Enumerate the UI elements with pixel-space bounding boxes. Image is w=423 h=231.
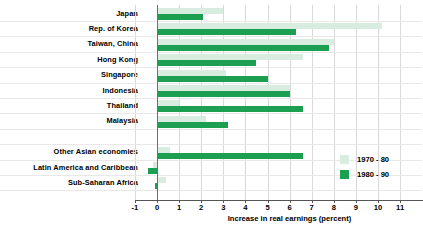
x-tick-label: 5: [258, 203, 278, 212]
row-separator: [0, 144, 422, 145]
bar: [148, 168, 157, 174]
x-tick-label: 6: [280, 203, 300, 212]
legend-label-1980-90: 1980 - 90: [357, 170, 389, 179]
row-separator: [0, 98, 422, 99]
row-separator: [0, 36, 422, 37]
bar: [157, 45, 329, 51]
gridline: [312, 5, 313, 200]
x-tick-label: 2: [191, 203, 211, 212]
legend-item: 1980 - 90: [340, 167, 389, 182]
legend-label-1970-80: 1970 - 80: [357, 155, 389, 164]
row-separator: [0, 52, 422, 53]
bar: [157, 29, 296, 35]
bar: [157, 122, 228, 128]
x-tick-label: 11: [390, 203, 410, 212]
legend-swatch-1980-90: [340, 170, 349, 179]
x-axis-title: Increase in real earnings (percent): [157, 214, 422, 223]
row-separator: [0, 21, 422, 22]
gridline: [135, 5, 136, 200]
bar: [157, 153, 303, 159]
x-tick-label: 9: [346, 203, 366, 212]
bar: [157, 91, 290, 97]
x-tick-label: 10: [368, 203, 388, 212]
bar: [157, 76, 268, 82]
legend-swatch-1970-80: [340, 155, 349, 164]
gridline: [400, 5, 401, 200]
category-label: Taiwan, China: [0, 40, 138, 48]
x-tick-label: 4: [235, 203, 255, 212]
x-tick-label: 3: [213, 203, 233, 212]
row-separator: [0, 113, 422, 114]
category-label: Other Asian economies: [0, 148, 138, 156]
row-separator: [0, 129, 422, 130]
category-axis-labels: JapanRep. of KoreaTaiwan, ChinaHong Kong…: [0, 0, 138, 200]
bar: [157, 14, 203, 20]
category-label: Latin America and Caribbean: [0, 164, 138, 172]
x-tick-label: 1: [169, 203, 189, 212]
category-label: Sub-Saharan Africa: [0, 179, 138, 187]
row-separator: [0, 83, 422, 84]
category-label: Thailand: [0, 102, 138, 110]
x-tick-label: 0: [147, 203, 167, 212]
x-tick-label: 8: [324, 203, 344, 212]
category-label: Malaysia: [0, 117, 138, 125]
gridline: [334, 5, 335, 200]
chart-legend: 1970 - 80 1980 - 90: [340, 152, 389, 182]
bar: [157, 106, 303, 112]
category-label: Indonesia: [0, 87, 138, 95]
category-label: Rep. of Korea: [0, 25, 138, 33]
bar: [157, 60, 256, 66]
bar: [157, 177, 166, 183]
legend-item: 1970 - 80: [340, 152, 389, 167]
x-tick-label: 7: [302, 203, 322, 212]
category-label: Hong Kong: [0, 56, 138, 64]
zero-axis-line: [157, 5, 158, 200]
row-separator: [0, 67, 422, 68]
category-label: Japan: [0, 10, 138, 18]
x-tick-label: -1: [125, 203, 145, 212]
category-label: Singapore: [0, 71, 138, 79]
row-separator: [0, 190, 422, 191]
chart-figure: JapanRep. of KoreaTaiwan, ChinaHong Kong…: [0, 0, 423, 231]
